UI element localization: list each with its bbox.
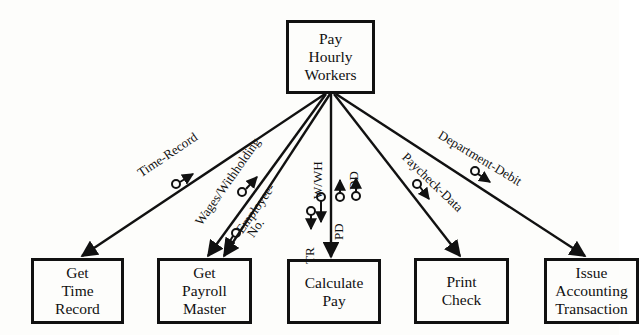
label-wwh: W/WH bbox=[311, 161, 325, 199]
module-label-line: Get bbox=[66, 264, 88, 282]
module-label-line: Transaction bbox=[555, 300, 628, 318]
module-label-line: Master bbox=[183, 300, 226, 318]
module-label-line: Calculate bbox=[305, 274, 364, 292]
module-label-line: Issue bbox=[576, 264, 608, 282]
module-calculate-pay[interactable]: Calculate Pay bbox=[287, 259, 381, 324]
module-print-check[interactable]: Print Check bbox=[414, 258, 509, 324]
module-issue-accounting-transaction[interactable]: Issue Accounting Transaction bbox=[544, 258, 639, 324]
module-label-line: Time bbox=[61, 282, 93, 300]
call-issue-accounting bbox=[336, 94, 585, 256]
module-label-line: Payroll bbox=[182, 282, 227, 300]
module-label-line: Check bbox=[442, 291, 482, 309]
module-pay-hourly-workers[interactable]: Pay Hourly Workers bbox=[286, 20, 375, 94]
employee-no-couple-icon bbox=[225, 229, 240, 249]
module-label-line: Print bbox=[446, 273, 476, 291]
module-get-payroll-master[interactable]: Get Payroll Master bbox=[157, 258, 252, 324]
label-dd: DD bbox=[347, 171, 361, 190]
label-pd: PD bbox=[332, 223, 346, 240]
tr-couple-icon bbox=[307, 207, 315, 229]
module-label-line: Workers bbox=[304, 66, 356, 84]
module-label-line: Pay bbox=[322, 292, 345, 310]
module-label-line: Hourly bbox=[309, 48, 353, 66]
label-tr: TR bbox=[303, 247, 317, 264]
module-label-line: Record bbox=[55, 300, 100, 318]
module-get-time-record[interactable]: Get Time Record bbox=[31, 258, 124, 324]
time-record-couple-icon bbox=[172, 174, 193, 188]
pd-couple-icon bbox=[336, 180, 344, 201]
module-label-line: Accounting bbox=[555, 282, 627, 300]
module-label-line: Get bbox=[193, 264, 215, 282]
module-label-line: Pay bbox=[319, 30, 342, 48]
call-get-time-record bbox=[82, 94, 325, 256]
